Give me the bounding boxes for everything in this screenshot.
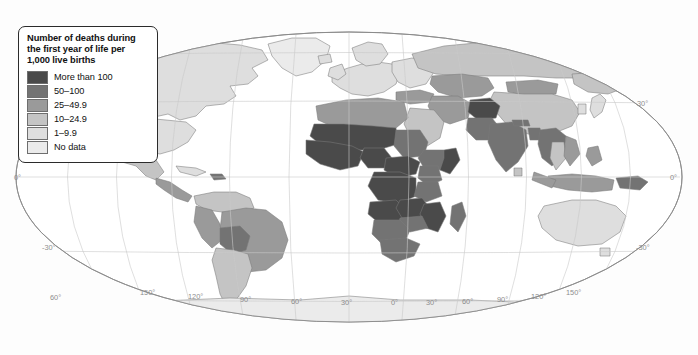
legend-row-10-24-9: 10–24.9 bbox=[27, 113, 150, 127]
legend-row-1-9-9: 1–9.9 bbox=[27, 127, 150, 141]
legend-swatch-1-9-9 bbox=[27, 127, 48, 140]
lat-label-right-minus30: -30° bbox=[636, 243, 650, 252]
lon-label-60w: 60° bbox=[291, 297, 302, 306]
lon-label-30e: 30° bbox=[426, 298, 437, 307]
legend-row-more-than-100: More than 100 bbox=[27, 71, 150, 85]
region-korea bbox=[578, 104, 586, 114]
legend-swatch-10-24-9 bbox=[27, 113, 48, 126]
lon-label-0: 0° bbox=[391, 298, 398, 307]
legend-swatch-more-than-100 bbox=[27, 71, 48, 84]
legend-swatch-25-49-9 bbox=[27, 99, 48, 112]
legend-label-1-9-9: 1–9.9 bbox=[54, 127, 77, 140]
legend-label-no-data: No data bbox=[54, 141, 86, 154]
legend-label-10-24-9: 10–24.9 bbox=[54, 113, 87, 126]
legend-label-25-49-9: 25–49.9 bbox=[54, 99, 87, 112]
lat-label-left-0: 0° bbox=[14, 173, 21, 182]
legend-swatch-50-100 bbox=[27, 85, 48, 98]
legend-swatch-no-data bbox=[27, 141, 48, 154]
lat-label-right-0: 0° bbox=[670, 173, 677, 182]
country-sri-lanka bbox=[514, 168, 522, 176]
legend-title: Number of deaths during the first year o… bbox=[27, 33, 150, 67]
legend-label-more-than-100: More than 100 bbox=[54, 71, 113, 84]
lon-label-150w: 150° bbox=[140, 288, 155, 297]
lon-label-90w: 90° bbox=[240, 295, 251, 304]
lon-label-150e: 150° bbox=[566, 288, 581, 297]
island-iceland bbox=[318, 54, 332, 64]
lon-label-120w: 120° bbox=[188, 292, 203, 301]
lon-label-30w: 30° bbox=[341, 298, 352, 307]
legend-label-50-100: 50–100 bbox=[54, 85, 84, 98]
lon-label-60e: 60° bbox=[462, 297, 473, 306]
lat-label-right-30: 30° bbox=[637, 99, 648, 108]
lon-label-90e: 90° bbox=[497, 295, 508, 304]
world-choropleth-map: 0° -30° 30° 0° -30° 60° 150° 120° 90° 60… bbox=[0, 0, 698, 355]
legend-title-line-3: 1,000 live births bbox=[27, 55, 150, 66]
lat-label-left-minus30: -30° bbox=[42, 243, 56, 252]
map-legend: Number of deaths during the first year o… bbox=[18, 26, 158, 163]
legend-row-50-100: 50–100 bbox=[27, 85, 150, 99]
lon-label-120e: 120° bbox=[531, 292, 546, 301]
legend-row-25-49-9: 25–49.9 bbox=[27, 99, 150, 113]
lat-label-bottom-left-60: 60° bbox=[50, 293, 61, 302]
country-nepal bbox=[512, 120, 530, 126]
legend-row-no-data: No data bbox=[27, 141, 150, 155]
legend-title-line-1: Number of deaths during bbox=[27, 33, 150, 44]
legend-title-line-2: the first year of life per bbox=[27, 44, 150, 55]
